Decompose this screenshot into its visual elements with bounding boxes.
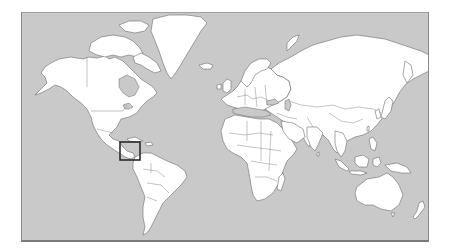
borneo [355, 155, 369, 167]
sulawesi [373, 157, 381, 167]
world-map [21, 12, 429, 242]
arctic-islands [89, 35, 143, 57]
ellesmere-island [119, 21, 149, 33]
new-zealand [413, 201, 425, 219]
iceland [199, 63, 213, 69]
india [307, 127, 323, 151]
ireland [217, 84, 221, 89]
philippines [369, 137, 377, 151]
map-canvas [22, 13, 429, 242]
java [349, 171, 367, 175]
hispaniola [145, 142, 153, 146]
taiwan [367, 126, 369, 131]
great-britain [223, 79, 231, 93]
north-america [35, 56, 157, 159]
australia [355, 173, 403, 211]
new-guinea [385, 163, 411, 173]
baffin-island [133, 53, 161, 73]
sri-lanka [317, 152, 319, 156]
south-america [133, 153, 187, 235]
sumatra [335, 159, 349, 171]
tasmania [391, 213, 395, 217]
novaya-zemlya [287, 35, 299, 51]
